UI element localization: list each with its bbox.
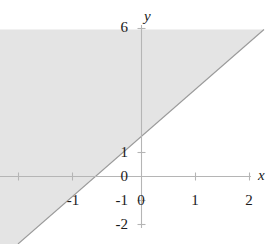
x-tick-label-2: 2	[237, 193, 261, 208]
y-tick-label-neg2: -2	[100, 217, 128, 232]
y-axis-label: y	[144, 9, 151, 24]
x-tick-label-neg1: -1	[58, 193, 88, 208]
x-tick-label-1: 1	[183, 193, 207, 208]
y-tick-label-0: 0	[106, 169, 128, 184]
inequality-graph: y x 6 1 0 -1 -2 -1 0 1 2	[0, 0, 280, 244]
shaded-region	[0, 30, 264, 244]
x-axis-label: x	[258, 168, 265, 183]
y-tick-label-1: 1	[106, 145, 128, 160]
x-tick-label-0: 0	[129, 193, 153, 208]
y-tick-label-neg1: -1	[100, 193, 128, 208]
y-tick-label-6: 6	[106, 20, 128, 35]
